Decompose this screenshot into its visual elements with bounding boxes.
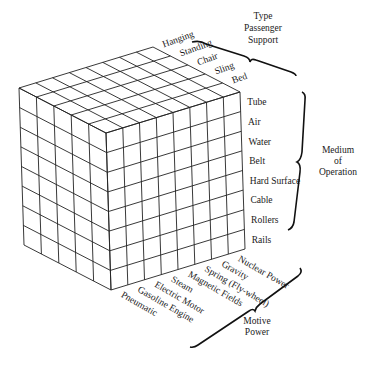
cube-grid (19, 47, 245, 290)
medium-of-operation-brace (288, 92, 305, 230)
left-face-gridline (20, 108, 107, 153)
left-face-gridline (19, 88, 106, 133)
top-face-gridline (120, 57, 207, 102)
left-face-gridline (23, 206, 110, 251)
top-face-gridline (69, 73, 156, 118)
medium-of-operation-label: Rails (252, 235, 272, 245)
top-face-gridline (53, 78, 140, 123)
motive-power-title-line-1: Motive (243, 316, 270, 326)
left-face-gridline (20, 127, 107, 172)
medium-of-operation-label: Rollers (251, 215, 279, 225)
medium-title-line-2: of (334, 156, 343, 166)
top-face-gridline (86, 68, 173, 113)
left-face-gridline (22, 167, 109, 212)
passenger-support-title-line-1: Type (254, 11, 273, 21)
medium-of-operation-label: Belt (249, 156, 265, 166)
axis-labels: HangingStandingChairSlingBedTubeAirWater… (119, 29, 300, 325)
medium-of-operation-label: Tube (247, 97, 266, 107)
left-face-gridline (22, 186, 109, 231)
morphological-cube-diagram: HangingStandingChairSlingBedTubeAirWater… (0, 0, 368, 365)
medium-of-operation-label: Water (249, 137, 272, 147)
passenger-support-label: Bed (231, 71, 249, 86)
left-face-gridline (21, 147, 108, 192)
motive-power-title-line-2: Power (245, 327, 270, 337)
left-face-gridline (24, 245, 111, 290)
passenger-support-label: Sling (213, 60, 236, 76)
medium-of-operation-label: Hard Surface (250, 176, 300, 186)
medium-title-line-1: Medium (322, 145, 355, 155)
medium-of-operation-label: Air (248, 117, 262, 127)
passenger-support-title-line-2: Passenger (244, 23, 283, 33)
top-face-gridline (103, 62, 190, 107)
medium-title-line-3: Operation (319, 167, 357, 177)
top-face-gridline (36, 83, 123, 128)
left-face-gridline (23, 225, 110, 270)
medium-of-operation-label: Cable (250, 195, 272, 205)
passenger-support-title-line-3: Support (248, 35, 278, 45)
right-face-gridline (109, 171, 243, 212)
